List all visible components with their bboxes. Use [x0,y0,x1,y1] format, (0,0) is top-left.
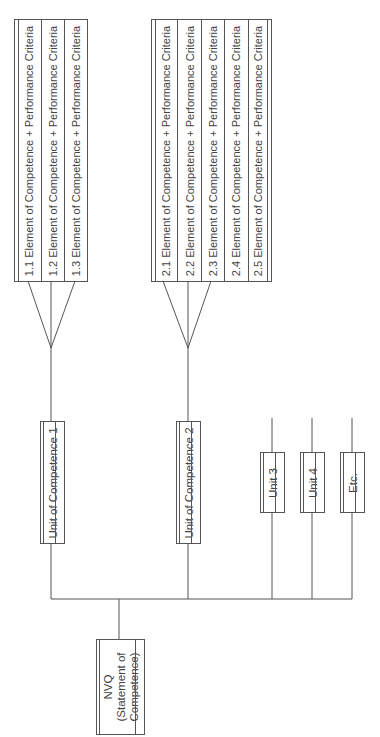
element-2-1: 2.1 Element of Competence + Performance … [155,20,177,281]
unit-of-competence-2-box: Unit of Competence 2 [176,421,201,544]
element-1-2: 1.2 Element of Competence + Performance … [41,20,64,281]
element-2-2: 2.2 Element of Competence + Performance … [177,20,200,281]
unit-label: Unit of Competence 2 [182,427,195,538]
unit-etc-box: Etc. [340,452,365,513]
element-label: 2.3 Element of Competence + Performance … [206,25,219,275]
unit-of-competence-1-box: Unit of Competence 1 [40,421,65,544]
unit-label: Unit of Competence 1 [46,427,59,538]
unit-3-box: Unit 3 [260,452,285,513]
unit-1-elements-box: 1.1 Element of Competence + Performance … [14,19,88,282]
element-label: 2.1 Element of Competence + Performance … [160,25,173,275]
element-label: 2.5 Element of Competence + Performance … [252,25,265,275]
element-1-1: 1.1 Element of Competence + Performance … [18,20,41,281]
unit-label: Etc. [346,473,359,493]
element-2-3: 2.3 Element of Competence + Performance … [201,20,224,281]
unit-4-box: Unit 4 [300,452,325,513]
element-label: 2.2 Element of Competence + Performance … [183,25,196,275]
element-2-5: 2.5 Element of Competence + Performance … [248,20,268,281]
nvq-label: NVQ (Statement of Competence) [101,652,140,721]
element-label: 1.3 Element of Competence + Performance … [69,25,82,275]
element-1-3: 1.3 Element of Competence + Performance … [64,20,87,281]
unit-label: Unit 4 [306,467,319,497]
element-label: 2.4 Element of Competence + Performance … [230,25,243,275]
nvq-subtitle-1: (Statement of [114,652,127,721]
nvq-subtitle-2: Competence) [127,652,140,721]
nvq-root-box: NVQ (Statement of Competence) [96,639,145,735]
nvq-title: NVQ [101,652,114,721]
element-2-4: 2.4 Element of Competence + Performance … [224,20,247,281]
unit-2-elements-box: 2.1 Element of Competence + Performance … [151,19,272,282]
unit-label: Unit 3 [266,467,279,497]
element-label: 1.1 Element of Competence + Performance … [23,25,36,275]
nvq-structure-diagram: 1.1 Element of Competence + Performance … [0,0,380,737]
element-label: 1.2 Element of Competence + Performance … [46,25,59,275]
